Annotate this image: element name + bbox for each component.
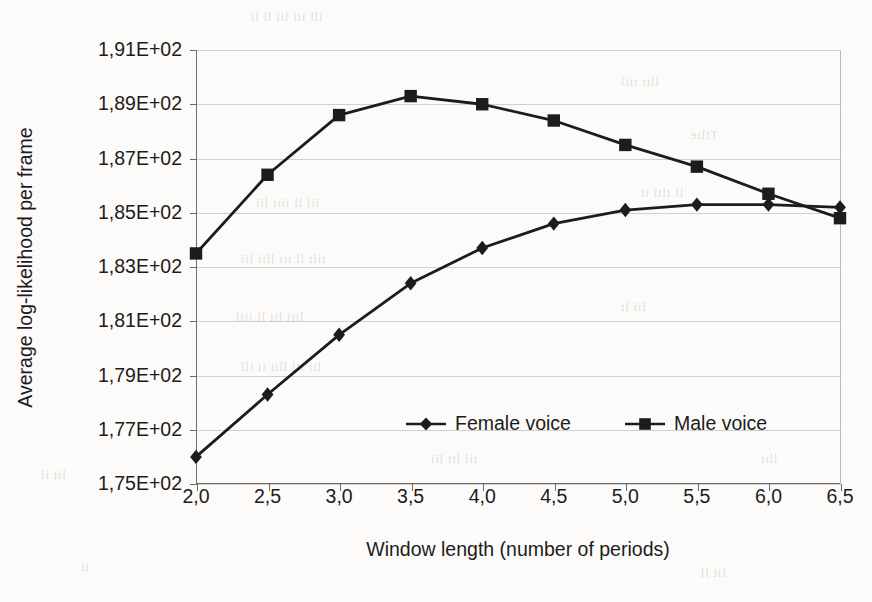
data-point <box>405 276 417 290</box>
legend-label-male: Male voice <box>674 412 767 435</box>
data-point <box>404 90 416 102</box>
data-point <box>476 241 488 255</box>
square-marker-icon <box>623 415 667 433</box>
data-point <box>762 188 774 200</box>
x-axis-title: Window length (number of periods) <box>196 538 840 561</box>
chart-legend: Female voice Male voice <box>404 412 767 435</box>
y-axis-title-text: Average log-likelihood per frame <box>14 127 37 407</box>
data-point <box>619 139 631 151</box>
data-point <box>190 247 202 259</box>
x-tick-label: 6,5 <box>810 487 870 507</box>
x-tick-label: 4,5 <box>524 487 584 507</box>
gridline <box>197 484 841 485</box>
y-tick-label: 1,91E+02 <box>98 40 182 60</box>
x-tick-label: 6,0 <box>738 487 798 507</box>
data-point <box>261 169 273 181</box>
y-tick-label: 1,85E+02 <box>98 203 182 223</box>
data-point <box>333 109 345 121</box>
data-point <box>548 114 560 126</box>
data-point <box>476 98 488 110</box>
x-tick-label: 2,5 <box>238 487 298 507</box>
data-point <box>619 203 631 217</box>
y-tick-label: 1,83E+02 <box>98 257 182 277</box>
x-tick-label: 5,0 <box>595 487 655 507</box>
y-tick-label: 1,89E+02 <box>98 94 182 114</box>
y-tick-label: 1,87E+02 <box>98 149 182 169</box>
x-tick-label: 3,0 <box>309 487 369 507</box>
x-tick-label: 4,0 <box>452 487 512 507</box>
x-tick-label: 2,0 <box>166 487 226 507</box>
diamond-marker-icon <box>404 415 448 433</box>
y-tick-label: 1,81E+02 <box>98 311 182 331</box>
data-point <box>834 212 846 224</box>
y-axis-title: Average log-likelihood per frame <box>10 50 40 484</box>
legend-item-male[interactable]: Male voice <box>623 412 767 435</box>
series-line-male-voice <box>196 96 840 253</box>
data-point <box>691 197 703 211</box>
legend-item-female[interactable]: Female voice <box>404 412 571 435</box>
x-tick-label: 5,5 <box>667 487 727 507</box>
y-tick-label: 1,79E+02 <box>98 366 182 386</box>
legend-label-female: Female voice <box>455 412 571 435</box>
y-tick-label: 1,77E+02 <box>98 420 182 440</box>
x-tick-label: 3,5 <box>381 487 441 507</box>
line-chart: Average log-likelihood per frame 1,91E+0… <box>0 0 872 602</box>
data-point <box>691 160 703 172</box>
data-point <box>548 216 560 230</box>
